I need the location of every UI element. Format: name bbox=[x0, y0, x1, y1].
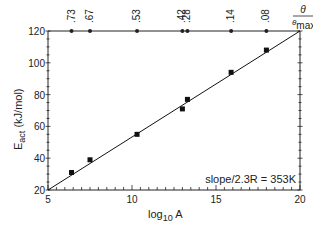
theta-marker bbox=[70, 29, 74, 33]
x-axis-label: log10 A bbox=[148, 208, 183, 223]
data-point-square bbox=[185, 97, 190, 102]
y-tick-label: 80 bbox=[34, 90, 46, 101]
x-axis-label-main: log bbox=[148, 208, 163, 220]
theta-label: .73 bbox=[66, 9, 77, 23]
y-tick-label: 100 bbox=[28, 58, 45, 69]
theta-denominator: θmax bbox=[292, 18, 313, 31]
data-point-square bbox=[69, 170, 74, 175]
data-point-square bbox=[229, 70, 234, 75]
annotation: slope/2.3R = 353K bbox=[205, 173, 296, 185]
theta-marker bbox=[229, 29, 233, 33]
y-tick-label: 40 bbox=[34, 153, 46, 164]
theta-marker bbox=[180, 29, 184, 33]
theta-marker bbox=[135, 29, 139, 33]
regression-line bbox=[48, 31, 300, 190]
y-axis-label: Eact (kJ/mol) bbox=[12, 88, 27, 150]
theta-label: .08 bbox=[260, 9, 271, 23]
x-axis-label-tail: A bbox=[173, 208, 183, 220]
data-points bbox=[69, 48, 269, 175]
x-tick-label: 20 bbox=[294, 194, 306, 205]
theta-marker bbox=[185, 29, 189, 33]
data-point-square bbox=[264, 48, 269, 53]
y-axis-label-tail: (kJ/mol) bbox=[12, 88, 24, 130]
theta-label: .67 bbox=[84, 9, 95, 23]
chart: 510152020406080100120 .73.67.53.42.28.14… bbox=[0, 0, 313, 229]
theta-label: .14 bbox=[225, 9, 236, 23]
theta-marker bbox=[88, 29, 92, 33]
y-axis-label-main: E bbox=[12, 143, 24, 150]
x-tick-label: 10 bbox=[126, 194, 138, 205]
x-tick-label: 15 bbox=[210, 194, 222, 205]
data-point-square bbox=[180, 106, 185, 111]
theta-axis: .73.67.53.42.28.14.08 bbox=[66, 9, 272, 33]
data-point-square bbox=[135, 132, 140, 137]
theta-marker bbox=[264, 29, 268, 33]
data-point-square bbox=[88, 157, 93, 162]
theta-label: .53 bbox=[131, 9, 142, 23]
theta-label: .28 bbox=[181, 9, 192, 23]
fit-line bbox=[48, 31, 300, 190]
y-tick-label: 60 bbox=[34, 121, 46, 132]
theta-numerator: θ bbox=[300, 4, 306, 15]
y-axis-label-sub: act bbox=[17, 130, 27, 143]
y-tick-label: 20 bbox=[34, 185, 46, 196]
y-tick-label: 120 bbox=[28, 26, 45, 37]
x-tick-label: 5 bbox=[45, 194, 51, 205]
x-axis-label-sub: 10 bbox=[163, 213, 173, 223]
theta-ratio-label: θ θmax bbox=[292, 4, 313, 31]
